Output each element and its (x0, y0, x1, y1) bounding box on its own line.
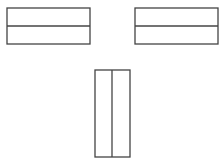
bottom-vertical-rect (95, 70, 130, 157)
left-horizontal-rect (7, 8, 90, 44)
diagram-svg (0, 0, 223, 161)
diagram-canvas (0, 0, 223, 161)
right-horizontal-rect (135, 8, 218, 44)
